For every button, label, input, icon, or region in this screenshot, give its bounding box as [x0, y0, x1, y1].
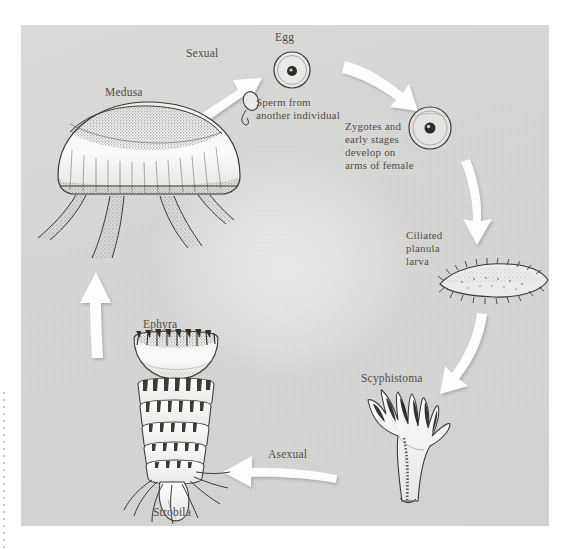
- figure-root: Medusa Sexual Egg Sperm from another ind…: [0, 0, 567, 549]
- label-scyphistoma: Scyphistoma: [361, 372, 423, 386]
- label-sexual: Sexual: [186, 47, 219, 61]
- label-strobila: Strobila: [153, 506, 191, 520]
- label-medusa: Medusa: [105, 86, 143, 100]
- label-sperm: Sperm from another individual: [256, 96, 340, 122]
- scan-edge-artifact: [3, 392, 5, 549]
- label-ephyra: Ephyra: [143, 318, 177, 332]
- label-zygotes: Zygotes and early stages develop on arms…: [345, 120, 414, 172]
- label-asexual: Asexual: [268, 448, 307, 462]
- label-egg: Egg: [275, 31, 294, 45]
- label-planula: Ciliated planula larva: [406, 229, 442, 268]
